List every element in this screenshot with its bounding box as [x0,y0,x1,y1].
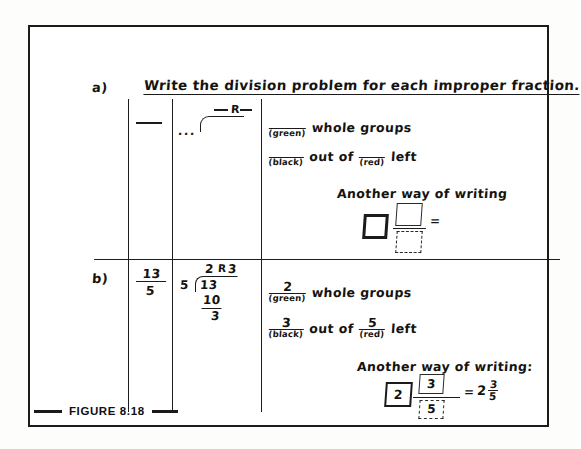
long-division-b-subtrahend: 10 [201,294,222,309]
table-vertical-rule-3 [261,99,262,412]
blank-a-red-tag: (red) [359,158,386,167]
blank-b-red-value: 5 [359,316,386,330]
improper-fraction-b-numerator: 13 [136,267,167,282]
figure-caption-row: FIGURE 8.18 [34,405,294,417]
figure-border-box: a) Write the division problem for each i… [28,25,549,427]
row-label-a: a) [92,81,108,95]
equals-sign-b: = [464,386,475,399]
blank-a-green: (green) [268,115,307,138]
statement-b-middle-text: out of [309,321,354,336]
improper-fraction-b-denominator: 5 [135,282,166,297]
long-division-b-divisor: 5 [180,279,190,292]
box-diagram-b: 2 3 5 = 2 3 5 [385,375,545,427]
blank-a-black: (black) [268,144,304,167]
blank-b-black-value: 3 [269,316,305,330]
blank-a-red-value [359,144,386,158]
long-division-a-bracket [200,116,244,132]
statement-b-whole-groups: 2 (green) whole groups [267,280,412,303]
statement-b-end-text: left [391,321,418,336]
numerator-box-b: 3 [418,374,444,394]
long-division-a-dots: ... [178,125,197,138]
whole-number-box-a [362,214,389,239]
statement-b-whole-groups-text: whole groups [311,285,412,300]
mixed-number-fraction: 3 5 [488,379,499,401]
denominator-box-b: 5 [418,400,444,419]
blank-b-black: 3 (black) [268,316,304,339]
long-division-a-remainder-label: R [231,104,241,116]
long-division-b: 5 13 2 R 3 10 3 [180,263,262,325]
blank-a-red: (red) [359,144,387,167]
long-division-b-quotient: 2 [204,263,216,277]
caption-rule-right [152,410,178,413]
mixed-number-denominator: 5 [488,391,498,402]
row-label-b: b) [92,272,109,286]
table-vertical-rule-1 [128,99,129,412]
another-way-title-a: Another way of writing [337,187,508,200]
long-division-b-dividend: 13 [200,279,218,292]
whole-number-box-b: 2 [384,382,413,407]
table-horizontal-rule [94,259,560,260]
long-division-a-quotient-blank [214,109,228,111]
statement-b-left-over: 3 (black) out of 5 (red) left [267,316,418,339]
denominator-box-a [395,231,423,253]
equals-sign-a: = [430,215,441,228]
blank-b-green: 2 (green) [268,280,307,303]
blank-b-green-tag: (green) [268,294,306,303]
blank-a-black-value [269,144,305,158]
figure-caption-text: FIGURE 8.18 [69,405,145,417]
fraction-bar-a [393,228,426,229]
statement-a-left-over: (black) out of (red) left [267,144,418,167]
statement-a-whole-groups-text: whole groups [311,120,412,135]
blank-b-black-tag: (black) [268,330,303,339]
another-way-title-b: Another way of writing: [357,360,534,373]
box-diagram-a: = [363,203,483,255]
statement-a-end-text: left [391,149,418,164]
blank-b-red-tag: (red) [359,330,386,339]
blank-fraction-a [136,122,162,124]
mixed-number-result-b: 2 3 5 [476,380,499,402]
figure-heading: Write the division problem for each impr… [143,78,580,95]
long-division-a-remainder-blank [240,109,252,111]
long-division-b-difference: 3 [211,310,221,323]
statement-a-whole-groups: (green) whole groups [267,115,412,138]
table-vertical-rule-2 [172,99,173,412]
fraction-bar-b [413,397,460,398]
mixed-number-whole: 2 [477,383,488,398]
numerator-box-a [395,203,423,226]
mixed-number-numerator: 3 [488,379,499,391]
long-division-a: ... R [178,109,258,143]
long-division-b-remainder-label: R [218,263,227,274]
statement-a-middle-text: out of [309,149,354,164]
blank-a-black-tag: (black) [268,158,303,167]
improper-fraction-b: 13 5 [135,267,167,297]
long-division-b-remainder: 3 [227,263,239,277]
blank-b-red: 5 (red) [359,316,387,339]
blank-b-green-value: 2 [269,280,307,294]
blank-a-green-tag: (green) [268,129,306,138]
blank-a-green-value [269,115,307,129]
caption-rule-left [34,410,62,413]
